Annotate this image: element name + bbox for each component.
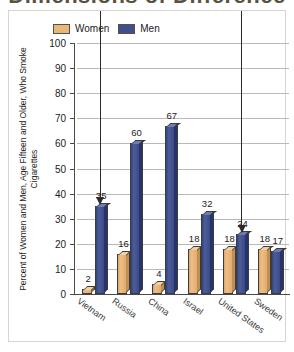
bar-value-label: 17 [273,235,284,246]
y-axis-tick [70,219,75,220]
y-axis-tick [70,294,75,295]
y-axis-tick [70,143,75,144]
bar-women-vietnam: 2 [82,289,95,294]
chart-frame: Women Men Percent of Women and Men, Age … [8,10,286,342]
chart-screenshot: Dimensions of Difference Women Men Perce… [0,0,294,352]
bar [130,143,140,294]
bar-group: 1660 [115,43,145,294]
bar-value-label: 4 [156,268,161,279]
bar-women-united-states: 18 [223,249,236,294]
y-axis-tick [70,194,75,195]
bar-men-united-states: 24 [236,234,249,294]
bar [258,249,268,294]
bar-side-face [104,203,108,293]
y-axis-tick [70,43,75,44]
y-axis-tick-label: 90 [55,63,66,74]
bar [201,214,211,294]
chart-title-cropped: Dimensions of Difference [0,0,294,9]
bar [152,284,162,294]
bar-group: 1824 [221,43,251,294]
y-axis-tick-label: 40 [55,188,66,199]
bar-women-russia: 16 [117,254,130,294]
plot-area: Percent of Women and Men, Age Fifteen an… [77,43,289,294]
bar-group: 1817 [256,43,286,294]
annotation-arrow [241,11,242,226]
bar [95,206,105,294]
bar-value-label: 67 [167,110,178,121]
legend-swatch-men [118,24,135,34]
bar-group: 1832 [186,43,216,294]
bar-side-face [210,211,214,293]
bar-men-china: 67 [165,126,178,294]
bar-side-face [280,248,284,293]
y-axis-tick [70,68,75,69]
y-axis-tick-label: 100 [49,38,66,49]
y-axis-tick-label: 30 [55,213,66,224]
bar [82,289,92,294]
bar-men-vietnam: 35 [95,206,108,294]
x-axis-labels: VietnamRussiaChinaIsraelUnited StatesSwe… [77,296,289,352]
bar-groups: 2351660467183218241817 [77,43,289,294]
y-axis-title: Percent of Women and Men, Age Fifteen an… [18,45,40,293]
legend-swatch-women [53,24,70,34]
bar-side-face [139,140,143,293]
bar [165,126,175,294]
bar-women-sweden: 18 [258,249,271,294]
x-axis-label: Vietnam [75,296,108,323]
bar-value-label: 32 [202,198,213,209]
x-axis-label: Sweden [252,296,284,323]
legend-label-women: Women [75,23,109,34]
bar [236,234,246,294]
bar-women-israel: 18 [188,249,201,294]
chart-legend: Women Men [53,23,160,34]
bar-men-russia: 60 [130,143,143,294]
x-axis-label: Israel [181,296,205,317]
y-axis-tick-label: 0 [60,289,66,300]
x-axis-label: China [146,296,171,318]
y-axis-tick [70,244,75,245]
y-axis-tick-label: 60 [55,138,66,149]
x-axis-label: Russia [111,296,139,320]
y-axis-tick-label: 50 [55,163,66,174]
bar-value-label: 2 [86,273,91,284]
y-axis-tick-label: 70 [55,113,66,124]
bar-value-label: 60 [131,127,142,138]
bar [117,254,127,294]
bar-value-label: 18 [260,233,271,244]
y-axis-tick [70,93,75,94]
y-axis-tick-label: 20 [55,238,66,249]
bar-group: 235 [80,43,110,294]
legend-item-men: Men [118,23,159,34]
legend-label-men: Men [140,23,159,34]
bar-men-sweden: 17 [271,251,284,294]
bar [271,251,281,294]
bar-value-label: 18 [224,233,235,244]
page-title: Dimensions of Difference [8,0,285,9]
bar-side-face [174,123,178,293]
annotation-arrow [100,11,101,198]
bar-value-label: 16 [118,238,129,249]
bar [223,249,233,294]
y-axis-tick [70,269,75,270]
bar-group: 467 [150,43,180,294]
y-axis-tick [70,118,75,119]
bar [188,249,198,294]
legend-item-women: Women [53,23,109,34]
bar-women-china: 4 [152,284,165,294]
bar-value-label: 18 [189,233,200,244]
y-axis-tick-label: 10 [55,263,66,274]
bar-men-israel: 32 [201,214,214,294]
bar-side-face [245,231,249,293]
y-axis-tick [70,169,75,170]
y-axis-tick-label: 80 [55,88,66,99]
